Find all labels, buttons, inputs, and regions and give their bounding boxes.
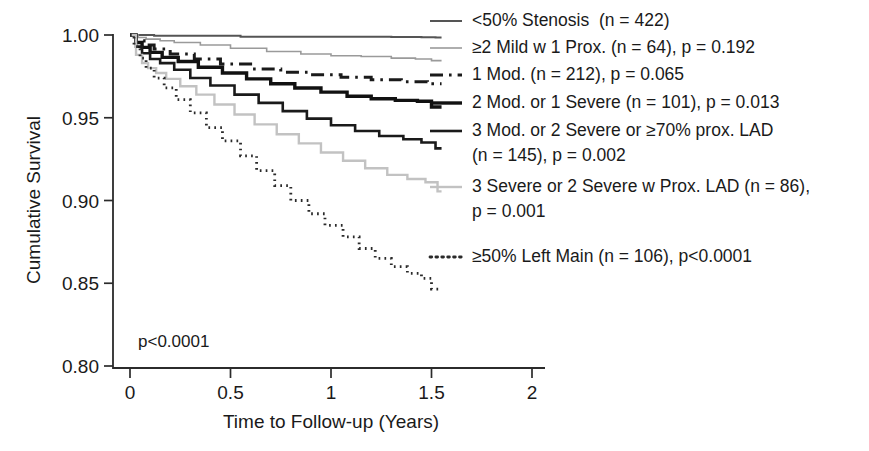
y-tick-label: 0.90: [62, 191, 99, 212]
legend-label: 1 Mod. (n = 212), p = 0.065: [472, 64, 684, 84]
y-axis-title: Cumulative Survival: [23, 116, 44, 284]
x-tick-label: 1: [326, 382, 337, 403]
legend-label-continuation: p = 0.001: [472, 201, 545, 221]
x-tick-label: 0: [125, 382, 136, 403]
y-tick-label: 0.95: [62, 108, 99, 129]
legend-label: 2 Mod. or 1 Severe (n = 101), p = 0.013: [472, 92, 779, 112]
chart-legend: <50% Stenosis (n = 422)≥2 Mild w 1 Prox.…: [430, 10, 810, 266]
y-axis-tick-labels: 0.800.850.900.951.00: [62, 25, 99, 377]
legend-label: ≥50% Left Main (n = 106), p<0.0001: [472, 246, 752, 266]
legend-label: 3 Severe or 2 Severe w Prox. LAD (n = 86…: [472, 176, 810, 196]
x-tick-label: 1.5: [418, 382, 444, 403]
survival-curves: [130, 35, 442, 289]
y-tick-label: 0.80: [62, 356, 99, 377]
x-axis-title: Time to Follow-up (Years): [223, 411, 439, 432]
legend-label: ≥2 Mild w 1 Prox. (n = 64), p = 0.192: [472, 37, 755, 57]
survival-curve: [130, 35, 442, 289]
survival-chart: 0.800.850.900.951.00 00.511.52 Cumulativ…: [0, 0, 869, 451]
overall-p-value-annotation: p<0.0001: [138, 332, 209, 351]
y-tick-label: 1.00: [62, 25, 99, 46]
x-tick-label: 2: [527, 382, 538, 403]
legend-label-continuation: (n = 145), p = 0.002: [472, 145, 626, 165]
y-tick-label: 0.85: [62, 273, 99, 294]
kaplan-meier-figure: 0.800.850.900.951.00 00.511.52 Cumulativ…: [0, 0, 869, 451]
survival-curve: [130, 35, 442, 37]
x-tick-label: 0.5: [217, 382, 243, 403]
x-axis-tick-labels: 00.511.52: [125, 382, 538, 403]
legend-label: <50% Stenosis (n = 422): [472, 10, 669, 30]
legend-label: 3 Mod. or 2 Severe or ≥70% prox. LAD: [472, 120, 773, 140]
